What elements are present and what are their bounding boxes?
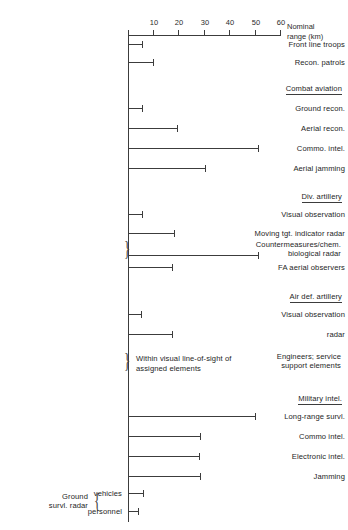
- x-tick-label-50: 50: [245, 18, 267, 27]
- bar-front-line-troops: [128, 44, 142, 45]
- x-tick-30: [204, 30, 205, 35]
- note-engineers-line1: Within visual line-of-sight of: [136, 354, 231, 364]
- row-label-visual-observation-div: Visual observation: [222, 210, 348, 219]
- bar-cap-commo-intel-air: [258, 145, 259, 152]
- section-air-def-artillery: Air def. artillery: [222, 292, 348, 301]
- bar-recon-patrols: [128, 62, 153, 63]
- x-tick-label-20: 20: [168, 18, 190, 27]
- row-label-personnel: personnel: [68, 507, 122, 516]
- row-label-fa-aerial-observers: FA aerial observers: [222, 263, 348, 272]
- bar-electronic-intel: [128, 456, 199, 457]
- axis-end-cap: [280, 30, 281, 36]
- bar-jamming: [128, 476, 200, 477]
- bar-cap-ground-recon: [142, 105, 143, 112]
- bar-visual-observation-ada: [128, 314, 141, 315]
- bar-long-range-survl: [128, 416, 255, 417]
- row-label-visual-observation-ada: Visual observation: [222, 310, 348, 319]
- bar-cap-front-line-troops: [142, 41, 143, 48]
- x-tick-50: [255, 30, 256, 35]
- bar-cap-visual-observation-ada: [141, 311, 142, 318]
- bar-cap-fa-aerial-observers: [172, 264, 173, 271]
- bar-cap-electronic-intel: [199, 453, 200, 460]
- section-military-intel-text: Military intel.: [298, 394, 342, 405]
- row-label-aerial-recon: Aerial recon.: [222, 124, 348, 133]
- bar-cap-recon-patrols: [153, 59, 154, 66]
- bar-cap-long-range-survl: [255, 413, 256, 420]
- bar-cap-vehicles: [143, 490, 144, 497]
- x-axis-line: [128, 35, 281, 36]
- bar-cap-aerial-jamming: [205, 165, 206, 172]
- section-div-artillery-text: Div. artillery: [302, 192, 343, 203]
- nominal-range-chart: 10 20 30 40 50 60 Nominal range (km) Fro…: [0, 0, 348, 530]
- bar-aerial-jamming: [128, 168, 205, 169]
- bar-ground-recon: [128, 108, 142, 109]
- brace-engineers: }: [124, 349, 130, 371]
- row-label-commo-intel-mi: Commo intel.: [222, 432, 348, 441]
- bar-countermeasures: [128, 255, 258, 256]
- bar-commo-intel-mi: [128, 436, 200, 437]
- section-combat-aviation: Combat aviation: [222, 84, 348, 93]
- row-label-engineers-line1: Engineers; service: [222, 352, 348, 361]
- section-military-intel: Military intel.: [222, 394, 348, 403]
- bar-aerial-recon: [128, 128, 177, 129]
- row-label-front-line-troops: Front line troops: [222, 40, 348, 49]
- axis-origin-cap: [128, 30, 129, 36]
- section-air-def-artillery-text: Air def. artillery: [290, 292, 342, 303]
- x-axis-title: Nominal range (km): [287, 22, 347, 42]
- row-label-jamming: Jamming: [222, 472, 348, 481]
- bar-cap-mti-radar: [174, 230, 175, 237]
- row-label-aerial-jamming: Aerial jamming: [222, 164, 348, 173]
- bar-cap-visual-observation-div: [142, 211, 143, 218]
- x-tick-40: [229, 30, 230, 35]
- bar-visual-observation-div: [128, 214, 142, 215]
- row-label-countermeasures-line1: Countermeasures/chem.: [222, 240, 348, 249]
- row-label-countermeasures-line2: biological radar: [222, 249, 348, 258]
- bar-cap-jamming: [200, 473, 201, 480]
- row-label-engineers-line2: support elements: [222, 361, 348, 370]
- bar-fa-aerial-observers: [128, 267, 172, 268]
- bar-cap-commo-intel-mi: [200, 433, 201, 440]
- row-label-mti-radar: Moving tgt. indicator radar: [222, 229, 348, 238]
- bar-mti-radar: [128, 233, 174, 234]
- bar-personnel: [128, 511, 138, 512]
- x-tick-20: [178, 30, 179, 35]
- note-engineers: Within visual line-of-sight of assigned …: [136, 354, 231, 374]
- note-engineers-line2: assigned elements: [136, 364, 231, 374]
- row-label-radar-ada: radar: [222, 330, 348, 339]
- x-tick-label-30: 30: [194, 18, 216, 27]
- bar-cap-aerial-recon: [177, 125, 178, 132]
- x-axis-title-line1: Nominal: [287, 22, 347, 32]
- x-tick-10: [153, 30, 154, 35]
- x-tick-label-40: 40: [219, 18, 241, 27]
- bar-commo-intel-air: [128, 148, 258, 149]
- row-label-vehicles: vehicles: [68, 489, 122, 498]
- row-label-recon-patrols: Recon. patrols: [222, 58, 348, 67]
- x-tick-label-10: 10: [143, 18, 165, 27]
- bar-cap-countermeasures: [258, 252, 259, 259]
- bar-vehicles: [128, 493, 143, 494]
- bar-cap-radar-ada: [172, 331, 173, 338]
- section-div-artillery: Div. artillery: [222, 192, 348, 201]
- row-label-electronic-intel: Electronic intel.: [222, 452, 348, 461]
- bar-cap-personnel: [138, 508, 139, 515]
- section-combat-aviation-text: Combat aviation: [286, 84, 342, 95]
- bar-radar-ada: [128, 334, 172, 335]
- row-label-ground-recon: Ground recon.: [222, 104, 348, 113]
